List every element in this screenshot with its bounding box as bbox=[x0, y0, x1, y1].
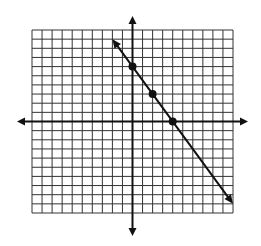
y-axis-down-arrow-icon bbox=[129, 228, 137, 236]
data-point bbox=[129, 63, 137, 71]
line-start-arrow-icon bbox=[112, 39, 121, 49]
y-axis-up-arrow-icon bbox=[129, 16, 137, 24]
line-end-arrow-icon bbox=[224, 194, 233, 204]
data-point bbox=[149, 90, 157, 98]
coordinate-plane-chart bbox=[0, 0, 261, 246]
x-axis-right-arrow-icon bbox=[240, 118, 248, 126]
data-point bbox=[169, 118, 177, 126]
x-axis-left-arrow-icon bbox=[17, 118, 25, 126]
